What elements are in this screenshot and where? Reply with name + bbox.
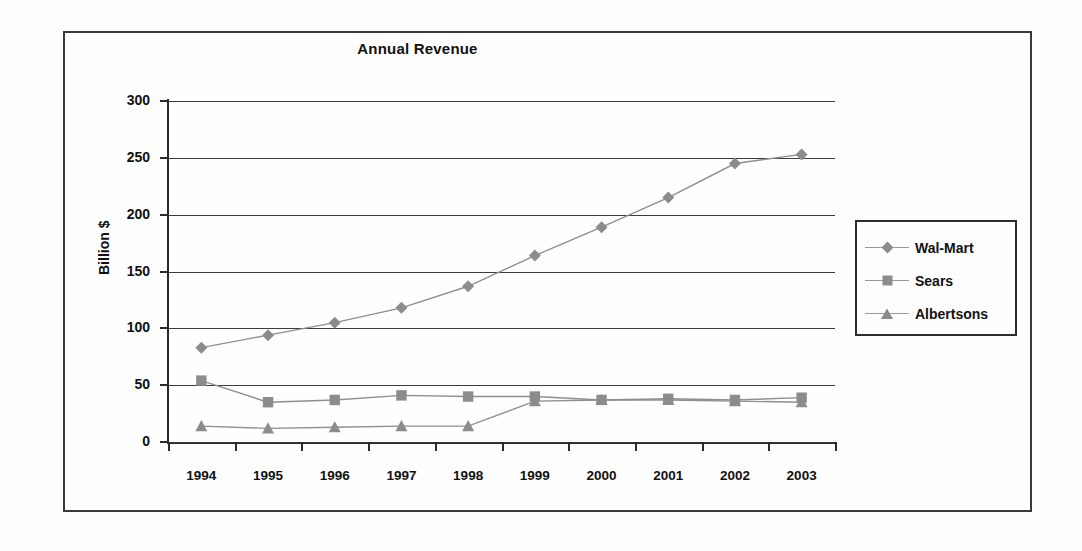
x-axis-tick-label: 1998	[438, 468, 498, 483]
y-axis-tick	[160, 271, 168, 273]
y-axis-tick	[160, 100, 168, 102]
data-point-marker	[463, 391, 473, 401]
x-axis-tick-label: 2003	[772, 468, 832, 483]
diamond-marker-icon	[865, 239, 909, 257]
data-point-marker	[262, 329, 274, 341]
x-axis-tick-label: 2000	[572, 468, 632, 483]
data-point-marker	[195, 342, 207, 354]
y-axis-tick-label: 250	[90, 149, 150, 165]
square-marker-icon	[865, 272, 909, 290]
x-axis-tick	[168, 442, 170, 451]
x-axis-tick	[835, 442, 837, 451]
legend-item-sears[interactable]: Sears	[865, 264, 1007, 297]
x-axis-tick	[635, 442, 637, 451]
plot-area	[168, 101, 835, 442]
series-layer	[168, 101, 835, 442]
y-axis-tick	[160, 384, 168, 386]
legend-label: Albertsons	[915, 306, 988, 322]
data-point-marker	[462, 280, 474, 292]
data-point-marker	[529, 250, 541, 262]
y-axis-tick-label: 300	[90, 92, 150, 108]
x-axis-tick	[702, 442, 704, 451]
data-point-marker	[196, 375, 206, 385]
series-sears	[196, 375, 807, 407]
x-axis-tick	[502, 442, 504, 451]
x-axis-tick-label: 1997	[371, 468, 431, 483]
legend-item-wal-mart[interactable]: Wal-Mart	[865, 231, 1007, 264]
data-point-marker	[796, 148, 808, 160]
legend-item-albertsons[interactable]: Albertsons	[865, 297, 1007, 330]
data-point-marker	[395, 302, 407, 314]
data-point-marker	[329, 317, 341, 329]
x-axis-tick-label: 1994	[171, 468, 231, 483]
legend-label: Wal-Mart	[915, 240, 974, 256]
data-point-marker	[263, 397, 273, 407]
y-axis-tick	[160, 327, 168, 329]
y-axis-tick	[160, 441, 168, 443]
x-axis-tick-label: 2002	[705, 468, 765, 483]
y-axis-tick-label: 100	[90, 319, 150, 335]
triangle-marker-icon	[865, 305, 909, 323]
y-axis-tick-label: 200	[90, 206, 150, 222]
x-axis-tick	[235, 442, 237, 451]
series-line	[201, 400, 801, 428]
chart-screenshot: Annual Revenue Billion $ 050100150200250…	[0, 0, 1082, 551]
x-axis-tick-label: 1996	[305, 468, 365, 483]
data-point-marker	[330, 395, 340, 405]
x-axis-tick	[435, 442, 437, 451]
legend-label: Sears	[915, 273, 953, 289]
x-axis-tick-label: 1995	[238, 468, 298, 483]
data-point-marker	[729, 158, 741, 170]
chart-title: Annual Revenue	[0, 40, 835, 57]
y-axis-tick-label: 150	[90, 263, 150, 279]
x-axis-tick	[368, 442, 370, 451]
y-axis-tick	[160, 214, 168, 216]
chart-legend: Wal-Mart Sears Albertsons	[855, 220, 1017, 336]
x-axis-tick-label: 1999	[505, 468, 565, 483]
data-point-marker	[596, 221, 608, 233]
y-axis-tick-label: 0	[90, 433, 150, 449]
data-point-marker	[662, 192, 674, 204]
series-line	[201, 154, 801, 347]
x-axis-tick	[768, 442, 770, 451]
x-axis-tick	[568, 442, 570, 451]
data-point-marker	[396, 390, 406, 400]
x-axis-tick	[301, 442, 303, 451]
series-line	[201, 381, 801, 403]
y-axis-tick	[160, 157, 168, 159]
x-axis-tick-label: 2001	[638, 468, 698, 483]
series-wal-mart	[195, 148, 807, 353]
y-axis-tick-label: 50	[90, 376, 150, 392]
